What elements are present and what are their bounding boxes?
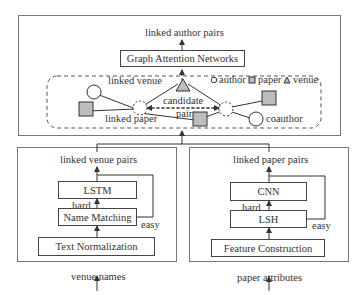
candidate-author-node-right [219, 102, 233, 116]
paper-node [193, 112, 207, 126]
input-venue-names: venue names [71, 272, 126, 283]
legend-author: author [219, 75, 246, 86]
venue-easy-label: easy [141, 220, 160, 231]
feature-construction-box: Feature Construction [211, 239, 325, 257]
paper-node [262, 91, 276, 105]
lstm-box: LSTM [58, 181, 137, 199]
paper-node [79, 102, 93, 116]
pair-label: pair [176, 109, 192, 120]
lsh-box: LSH [230, 210, 307, 228]
output-linked-venue-pairs: linked venue pairs [60, 155, 137, 166]
text-normalization-box: Text Normalization [38, 237, 155, 256]
candidate-label: candidate [163, 96, 203, 107]
coauthor-label: coauthor [266, 114, 303, 125]
output-linked-author-pairs: linked author pairs [145, 28, 224, 39]
author-node [87, 85, 101, 99]
input-paper-attributes: paper attributes [237, 273, 302, 284]
coauthor-node [249, 112, 263, 126]
venue-node [176, 79, 190, 91]
gat-box: Graph Attention Networks [120, 50, 245, 67]
cnn-box: CNN [230, 182, 307, 201]
linked-venue-label: linked venue [108, 76, 162, 87]
legend-venue: venue [293, 75, 318, 86]
output-linked-paper-pairs: linked paper pairs [233, 155, 308, 166]
legend-paper: paper [258, 75, 281, 86]
linked-paper-label: linked paper [105, 114, 157, 125]
paper-easy-label: easy [312, 221, 331, 232]
name-matching-box: Name Matching [58, 208, 137, 226]
